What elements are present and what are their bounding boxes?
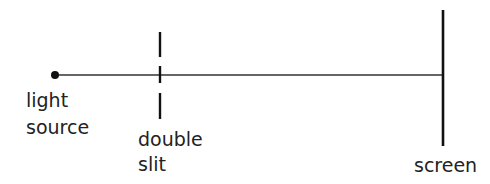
light-source-dot: [51, 71, 59, 79]
light-source-label-line2: source: [26, 114, 89, 140]
double-slit-label-line2: slit: [138, 151, 166, 177]
double-slit-diagram: light source double slit screen: [0, 0, 490, 184]
double-slit-label-line1: double: [138, 126, 203, 152]
light-source-label-line1: light: [26, 87, 68, 113]
screen-label: screen: [414, 152, 477, 178]
